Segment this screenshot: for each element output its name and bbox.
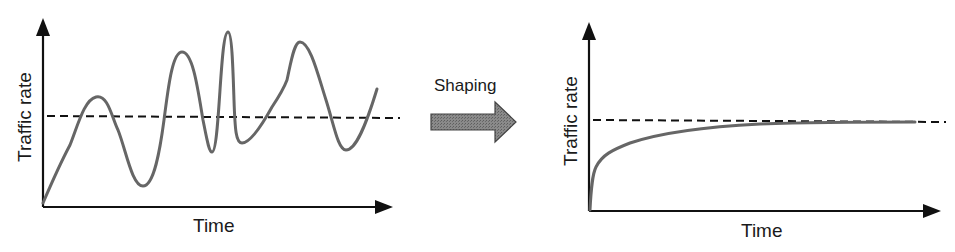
shaping-arrow-icon: [431, 102, 516, 142]
figure-canvas: [0, 0, 955, 252]
right-x-axis-label: Time: [741, 220, 783, 242]
left-x-axis-arrow-icon: [375, 200, 393, 214]
right-y-axis-arrow-icon: [582, 22, 596, 40]
right-traffic-curve: [590, 122, 915, 210]
right-y-axis-label: Traffic rate: [560, 76, 582, 166]
left-threshold-line: [47, 116, 400, 118]
shaping-label: Shaping: [434, 76, 496, 96]
left-x-axis-label: Time: [193, 215, 235, 237]
left-chart: [36, 18, 400, 214]
left-y-axis-label: Traffic rate: [14, 72, 36, 162]
left-y-axis-arrow-icon: [36, 18, 50, 36]
right-x-axis-arrow-icon: [923, 204, 941, 218]
right-chart: [582, 22, 946, 218]
